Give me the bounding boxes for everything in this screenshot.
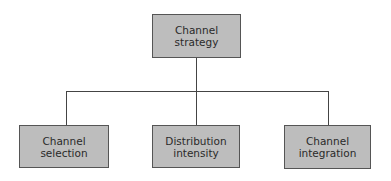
connector-middle-down (196, 91, 197, 125)
child-node-label: Channel selection (40, 135, 87, 159)
root-node-channel-strategy: Channel strategy (152, 14, 241, 58)
connector-right-down (328, 91, 329, 125)
child-node-channel-selection: Channel selection (19, 125, 109, 168)
child-node-label: Channel integration (299, 135, 357, 159)
channel-strategy-diagram: Channel strategy Channel selection Distr… (0, 0, 391, 181)
connector-left-down (66, 91, 67, 125)
connector-root-down (196, 58, 197, 91)
child-node-distribution-intensity: Distribution intensity (152, 125, 240, 168)
child-node-channel-integration: Channel integration (284, 125, 371, 169)
root-node-label: Channel strategy (175, 24, 219, 48)
connector-horizontal (66, 91, 329, 92)
child-node-label: Distribution intensity (165, 135, 226, 159)
